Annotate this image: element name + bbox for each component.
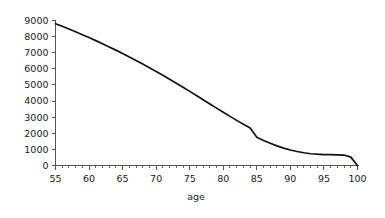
y-axis-tick-label: 3000	[24, 112, 48, 123]
y-axis-tick-label: 5000	[24, 79, 48, 90]
x-axis-tick-label: 60	[83, 173, 95, 184]
x-axis-tick-label: 100	[348, 173, 366, 184]
y-axis-tick-label: 8000	[24, 31, 48, 42]
y-axis-tick-label: 7000	[24, 47, 48, 58]
x-axis-tick-label: 70	[150, 173, 162, 184]
line-chart: 0100020003000400050006000700080009000 55…	[0, 0, 385, 218]
chart-container: 0100020003000400050006000700080009000 55…	[0, 0, 385, 218]
x-axis-tick-label: 95	[318, 173, 330, 184]
y-axis-tick-label: 4000	[24, 95, 48, 106]
y-axis-tick-label: 0	[42, 160, 48, 171]
x-axis-title: age	[187, 191, 205, 202]
x-axis-tick-label: 55	[49, 173, 61, 184]
x-axis-tick-label: 85	[251, 173, 263, 184]
x-axis-tick-label: 65	[117, 173, 129, 184]
x-axis-tick-label: 75	[184, 173, 196, 184]
x-axis-tick-label: 90	[284, 173, 296, 184]
chart-background	[0, 0, 385, 218]
y-axis-tick-label: 6000	[24, 63, 48, 74]
x-axis-tick-label: 80	[217, 173, 229, 184]
y-axis-tick-label: 9000	[24, 15, 48, 26]
y-axis-tick-label: 1000	[24, 144, 48, 155]
y-axis-tick-label: 2000	[24, 128, 48, 139]
